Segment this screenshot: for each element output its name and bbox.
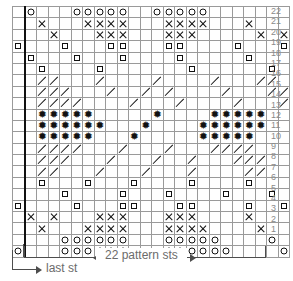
circle-icon bbox=[175, 7, 186, 17]
stitch-cell bbox=[175, 63, 187, 74]
row-number: 14 bbox=[268, 89, 293, 99]
stitch-cell bbox=[152, 63, 164, 74]
stitch-cell bbox=[83, 63, 95, 74]
stitch-cell bbox=[71, 7, 83, 18]
stitch-cell bbox=[140, 98, 152, 109]
stitch-cell bbox=[117, 177, 129, 188]
stitch-cell bbox=[163, 132, 175, 143]
x-icon bbox=[106, 18, 117, 28]
stitch-cell bbox=[163, 63, 175, 74]
circle-icon bbox=[83, 7, 94, 17]
stitch-cell bbox=[221, 177, 233, 188]
stitch-cell bbox=[278, 246, 290, 257]
stitch-cell bbox=[140, 7, 152, 18]
stitch-cell bbox=[175, 86, 187, 97]
x-icon bbox=[37, 223, 48, 233]
stitch-row bbox=[13, 223, 290, 234]
slash-icon bbox=[37, 166, 48, 176]
stitch-cell bbox=[129, 132, 141, 143]
slash-icon bbox=[72, 144, 83, 154]
stitch-cell bbox=[209, 52, 221, 63]
stitch-cell bbox=[163, 41, 175, 52]
stitch-cell bbox=[244, 41, 256, 52]
slash-icon bbox=[221, 144, 232, 154]
stitch-cell bbox=[117, 132, 129, 143]
stitch-cell bbox=[140, 63, 152, 74]
stitch-cell bbox=[48, 212, 60, 223]
stitch-cell bbox=[129, 177, 141, 188]
stitch-cell bbox=[117, 7, 129, 18]
stitch-cell bbox=[255, 212, 267, 223]
stitch-cell bbox=[48, 7, 60, 18]
stitch-cell bbox=[209, 234, 221, 245]
star-icon bbox=[49, 132, 60, 142]
stitch-cell bbox=[94, 132, 106, 143]
stitch-cell bbox=[175, 155, 187, 166]
row-number: 22 bbox=[268, 6, 293, 16]
square-icon bbox=[187, 201, 198, 211]
stitch-cell bbox=[60, 63, 72, 74]
stitch-cell bbox=[94, 155, 106, 166]
circle-icon bbox=[118, 235, 129, 245]
stitch-cell bbox=[106, 166, 118, 177]
slash-icon bbox=[37, 75, 48, 85]
stitch-cell bbox=[48, 177, 60, 188]
stitch-cell bbox=[94, 189, 106, 200]
stitch-cell bbox=[129, 18, 141, 29]
circle-icon bbox=[95, 7, 106, 17]
x-icon bbox=[95, 212, 106, 222]
stitch-cell bbox=[71, 29, 83, 40]
stitch-cell bbox=[60, 7, 72, 18]
stitch-cell bbox=[244, 86, 256, 97]
stitch-cell bbox=[94, 7, 106, 18]
stitch-cell bbox=[140, 120, 152, 131]
circle-icon bbox=[175, 235, 186, 245]
star-icon bbox=[152, 110, 163, 120]
stitch-cell bbox=[60, 75, 72, 86]
square-icon bbox=[164, 41, 175, 51]
stitch-cell bbox=[140, 52, 152, 63]
stitch-cell bbox=[117, 223, 129, 234]
circle-icon bbox=[198, 235, 209, 245]
x-icon bbox=[187, 223, 198, 233]
x-icon bbox=[26, 212, 37, 222]
stitch-cell bbox=[140, 29, 152, 40]
stitch-cell bbox=[209, 132, 221, 143]
x-icon bbox=[187, 30, 198, 40]
x-icon bbox=[164, 30, 175, 40]
stitch-cell bbox=[163, 212, 175, 223]
stitch-cell bbox=[117, 75, 129, 86]
stitch-cell bbox=[255, 41, 267, 52]
circle-icon bbox=[72, 7, 83, 17]
stitch-cell bbox=[163, 18, 175, 29]
stitch-cell bbox=[71, 223, 83, 234]
stitch-cell bbox=[83, 212, 95, 223]
stitch-cell bbox=[152, 143, 164, 154]
stitch-cell bbox=[152, 29, 164, 40]
stitch-cell bbox=[13, 41, 25, 52]
stitch-cell bbox=[13, 212, 25, 223]
stitch-cell bbox=[129, 212, 141, 223]
stitch-cell bbox=[209, 86, 221, 97]
stitch-cell bbox=[129, 41, 141, 52]
stitch-cell bbox=[152, 109, 164, 120]
x-icon bbox=[175, 18, 186, 28]
stitch-cell bbox=[198, 143, 210, 154]
stitch-cell bbox=[71, 52, 83, 63]
stitch-cell bbox=[221, 155, 233, 166]
stitch-cell bbox=[186, 132, 198, 143]
stitch-cell bbox=[13, 109, 25, 120]
stitch-cell bbox=[83, 143, 95, 154]
stitch-cell bbox=[232, 7, 244, 18]
stitch-cell bbox=[152, 86, 164, 97]
stitch-cell bbox=[244, 7, 256, 18]
stitch-cell bbox=[71, 86, 83, 97]
stitch-cell bbox=[37, 200, 49, 211]
stitch-grid bbox=[12, 6, 290, 258]
stitch-cell bbox=[140, 166, 152, 177]
stitch-cell bbox=[129, 189, 141, 200]
stitch-cell bbox=[209, 155, 221, 166]
circle-icon bbox=[164, 7, 175, 17]
stitch-cell bbox=[152, 75, 164, 86]
stitch-cell bbox=[255, 75, 267, 86]
